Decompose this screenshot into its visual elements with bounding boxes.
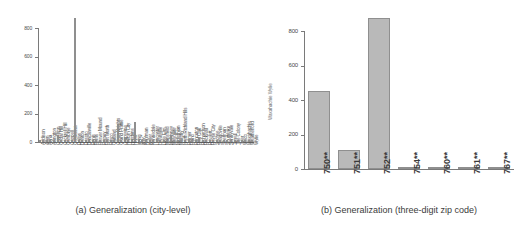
y-axis-tick [35,142,38,143]
y-axis-tick-label: 800 [280,29,298,34]
bar [237,140,239,142]
x-axis-tick-label: 767** [503,152,512,174]
bar [166,140,168,142]
y-axis-tick-label: 800 [14,26,32,31]
y-axis-tick [35,28,38,29]
chart-panel-city-level: 0200400600800AddisonAllenAnnaArlingtonCa… [0,0,266,237]
x-axis-tick-label: 752** [383,152,392,174]
y-axis-line [38,28,39,142]
plot-area-b: 0200400600800750**751**752**754**760**76… [304,14,514,169]
overflow-label-a: Waxahachie Wylie [268,83,273,120]
y-axis-tick-label: 400 [280,98,298,103]
bar [152,140,154,142]
bar [81,140,83,142]
y-axis-tick-label: 600 [280,63,298,68]
y-axis-tick [35,114,38,115]
y-axis-tick [301,31,304,32]
bar [205,140,207,142]
bar [212,140,214,142]
y-axis-tick [35,85,38,86]
caption-a: (a) Generalization (city-level) [0,205,266,215]
bar [368,18,390,169]
y-axis-tick-label: 600 [14,54,32,59]
bar [127,140,129,142]
bar [106,140,108,142]
y-axis-tick-label: 0 [280,167,298,172]
bar [113,140,115,142]
y-axis-tick [301,100,304,101]
bar [60,140,62,142]
x-axis-tick-label: Wylie [254,135,259,145]
y-axis-tick-label: 0 [14,140,32,145]
caption-b: (b) Generalization (three-digit zip code… [266,205,532,215]
figure-container: 0200400600800AddisonAllenAnnaArlingtonCa… [0,0,532,237]
bar [74,18,76,142]
y-axis-line [304,31,305,169]
bar [244,140,246,142]
x-axis-tick-label: 761** [473,152,482,174]
x-axis-tick-label: 760** [443,152,452,174]
chart-panel-zip-code: 0200400600800750**751**752**754**760**76… [266,0,532,237]
y-axis-tick-label: 200 [14,111,32,116]
y-axis-tick [35,57,38,58]
x-axis-tick-label: 750** [323,152,332,174]
y-axis-tick [301,169,304,170]
bar [53,140,55,142]
bar [184,140,186,142]
plot-area-a: 0200400600800AddisonAllenAnnaArlingtonCa… [38,14,254,142]
bar [67,140,69,142]
bar [99,140,101,142]
bar [198,138,200,142]
bar [138,140,140,142]
bar [159,140,161,142]
y-axis-tick-label: 400 [14,83,32,88]
bar [145,140,147,142]
x-axis-tick-label: 754** [413,152,422,174]
bar [191,140,193,142]
x-axis-tick-label: 751** [353,152,362,174]
y-axis-tick [301,66,304,67]
y-axis-tick-label: 200 [280,132,298,137]
x-axis-line [304,169,514,170]
bar [230,140,232,142]
bar [223,140,225,142]
bar [120,140,122,142]
y-axis-tick [301,135,304,136]
bar [251,140,253,142]
